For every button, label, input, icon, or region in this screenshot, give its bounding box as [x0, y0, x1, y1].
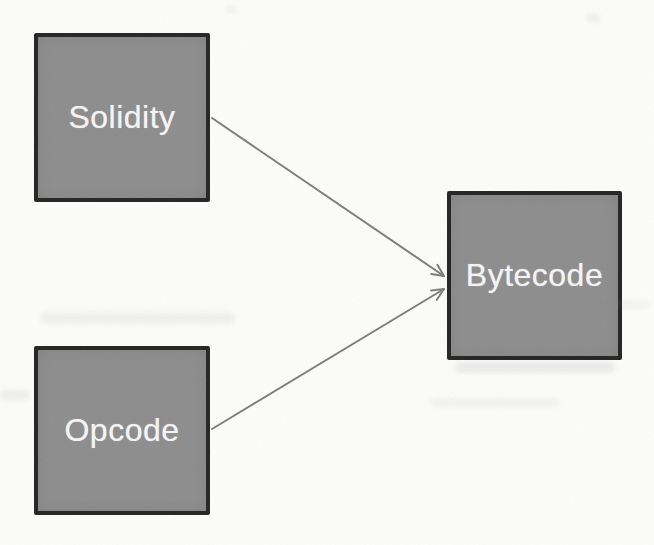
bleedthrough-smudge: [40, 312, 235, 324]
edge-solidity-to-bytecode: [212, 118, 444, 276]
node-opcode: Opcode: [34, 346, 210, 515]
node-bytecode: Bytecode: [447, 191, 622, 360]
bleedthrough-smudge: [0, 390, 30, 400]
arrowhead-opcode-to-bytecode-icon: [431, 289, 444, 300]
edge-opcode-to-bytecode: [212, 289, 444, 429]
bleedthrough-smudge: [455, 362, 615, 373]
bleedthrough-smudge: [225, 6, 237, 13]
node-bytecode-label: Bytecode: [466, 257, 603, 294]
diagram-canvas: Solidity Opcode Bytecode: [0, 0, 654, 545]
arrowhead-solidity-to-bytecode-icon: [431, 265, 444, 276]
bleedthrough-smudge: [430, 398, 560, 407]
node-solidity: Solidity: [34, 33, 210, 202]
bleedthrough-smudge: [586, 14, 600, 22]
node-opcode-label: Opcode: [64, 412, 179, 449]
node-solidity-label: Solidity: [68, 99, 175, 136]
